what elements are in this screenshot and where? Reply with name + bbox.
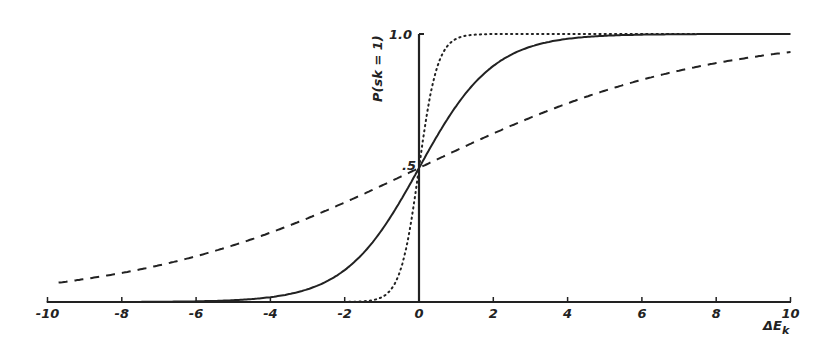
x-tick-label: -8: [115, 306, 129, 321]
x-tick-label: 8: [712, 306, 721, 321]
x-tick-label: 2: [489, 306, 498, 321]
x-ticks: -10-8-6-4-20246810: [36, 297, 800, 321]
x-tick-label: -4: [263, 306, 277, 321]
y-axis-title: P(sk = 1): [370, 35, 385, 102]
dashed-curve: [59, 52, 791, 283]
x-tick-label: -2: [337, 306, 351, 321]
x-tick-label: -10: [36, 306, 60, 321]
x-tick-label: 6: [637, 306, 646, 321]
x-tick-label: 0: [414, 306, 423, 321]
y-tick-label-one: 1.0: [389, 27, 412, 42]
sigmoid-chart: -10-8-6-4-20246810 1.0 .5 P(sk = 1) ΔEk: [0, 0, 834, 355]
x-tick-label: 4: [562, 306, 572, 321]
x-tick-label: 10: [781, 306, 799, 321]
y-tick-label-half: .5: [402, 158, 416, 173]
x-tick-label: -6: [189, 306, 203, 321]
